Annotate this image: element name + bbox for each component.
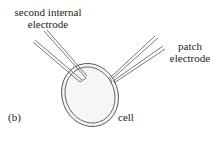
figure-canvas: second internal electrode patch electrod… [0, 0, 223, 141]
patch-electrode [109, 36, 165, 83]
patch-electrode-label-line1: patch [164, 40, 216, 52]
panel-label: (b) [8, 111, 21, 123]
patch-electrode-label-line2: electrode [164, 52, 216, 64]
second-internal-electrode-label-line2: electrode [6, 18, 90, 30]
second-internal-electrode-label-line1: second internal [6, 6, 90, 18]
cell-label: cell [118, 111, 134, 123]
cell-shape [53, 55, 128, 134]
